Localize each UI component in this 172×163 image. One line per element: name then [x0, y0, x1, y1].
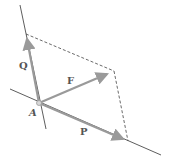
- dashed-line-q-to-f: [26, 34, 114, 71]
- label-f: F: [67, 76, 74, 86]
- point-a-marker: [37, 101, 42, 106]
- label-q: Q: [19, 61, 28, 71]
- dashed-line-f-to-p: [114, 71, 128, 141]
- force-diagram: [0, 0, 172, 163]
- label-p: P: [80, 127, 88, 137]
- vector-q-arrow: [27, 39, 39, 103]
- label-a: A: [29, 108, 37, 118]
